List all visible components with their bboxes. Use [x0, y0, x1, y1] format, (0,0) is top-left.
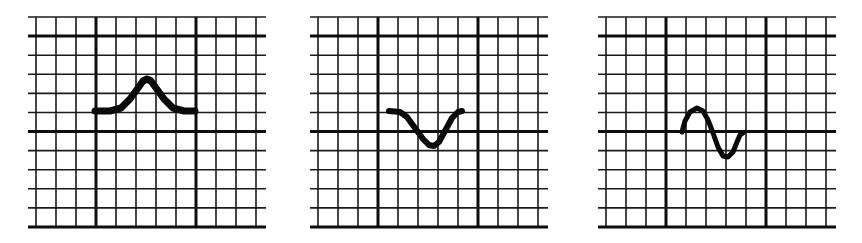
inverted-waveform: [389, 111, 462, 146]
upright-waveform: [95, 79, 195, 111]
grid-lines: [310, 17, 548, 227]
ecg-panel-inverted: [308, 0, 558, 243]
grid-lines: [598, 17, 836, 227]
ecg-panel-biphasic: [596, 0, 846, 243]
grid-lines: [28, 17, 266, 227]
ecg-grid-svg: [596, 0, 846, 243]
ecg-panel-upright: [26, 0, 276, 243]
ecg-grid-svg: [308, 0, 558, 243]
ecg-grid-svg: [26, 0, 276, 243]
